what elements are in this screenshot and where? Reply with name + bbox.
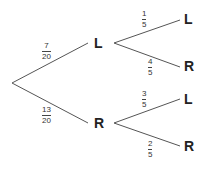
prob-root-L: 7 20 — [42, 42, 51, 61]
tree-branches — [0, 0, 202, 170]
node-L: L — [94, 36, 103, 50]
branch-R-L — [114, 99, 180, 123]
branch-L-L — [114, 20, 180, 43]
branch-L-R — [114, 43, 180, 67]
node-L-L: L — [184, 12, 193, 26]
node-R-L: L — [184, 92, 193, 106]
prob-root-R: 13 20 — [42, 106, 51, 125]
branch-R-R — [114, 123, 180, 146]
prob-R-L: 3 5 — [142, 90, 146, 109]
prob-L-R: 4 5 — [148, 58, 152, 77]
prob-R-R: 2 5 — [148, 140, 152, 159]
node-L-R: R — [184, 59, 194, 73]
node-R-R: R — [184, 139, 194, 153]
node-R: R — [94, 116, 104, 130]
prob-L-L: 1 5 — [142, 10, 146, 29]
